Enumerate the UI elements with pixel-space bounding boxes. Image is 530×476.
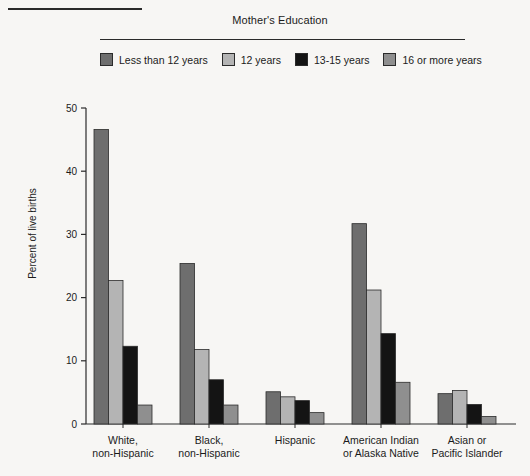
bar — [281, 397, 296, 424]
bar — [209, 380, 224, 424]
bar — [94, 129, 109, 424]
bar — [367, 290, 382, 424]
x-axis-category-label: Black, — [195, 434, 224, 446]
bar-chart-svg: 01020304050White,non-HispanicBlack,non-H… — [0, 0, 530, 476]
bar — [295, 401, 310, 424]
x-axis-category-label: American Indian — [343, 434, 419, 446]
bar — [453, 391, 468, 424]
bar — [224, 405, 239, 424]
y-axis-tick-label: 40 — [66, 166, 78, 177]
x-axis-category-label: Asian or — [448, 434, 487, 446]
x-axis-category-label: Pacific Islander — [431, 447, 503, 459]
x-axis-category-label: non-Hispanic — [92, 447, 153, 459]
y-axis-tick-label: 0 — [71, 419, 77, 430]
bar — [352, 224, 367, 424]
bar — [266, 392, 281, 424]
bar — [310, 413, 325, 424]
bar — [467, 404, 482, 424]
x-axis-category-label: non-Hispanic — [178, 447, 239, 459]
bar — [109, 281, 124, 424]
bar — [195, 349, 210, 424]
bar — [138, 405, 153, 424]
chart-plot-area: Percent of live births 01020304050White,… — [0, 0, 530, 476]
y-axis-tick-label: 30 — [66, 229, 78, 240]
x-axis-category-label: White, — [108, 434, 138, 446]
bar — [180, 263, 195, 424]
bar — [123, 346, 138, 424]
y-axis-tick-label: 20 — [66, 292, 78, 303]
bar — [396, 382, 411, 424]
bar — [438, 394, 453, 424]
bar — [482, 416, 497, 424]
bar — [381, 334, 396, 424]
y-axis-tick-label: 50 — [66, 103, 78, 114]
y-axis-tick-label: 10 — [66, 355, 78, 366]
x-axis-category-label: or Alaska Native — [343, 447, 419, 459]
x-axis-category-label: Hispanic — [275, 434, 315, 446]
